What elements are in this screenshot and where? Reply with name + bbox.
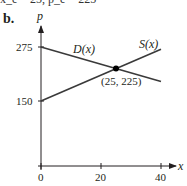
supply-label: S(x) [139, 37, 158, 51]
y-tick-label-275: 275 [16, 41, 33, 53]
x-axis-label: x [177, 159, 184, 173]
supply-demand-chart: p x 275 150 0 20 40 D(x) S(x) (25, 225) [0, 0, 187, 186]
y-tick-label-150: 150 [16, 95, 33, 107]
equilibrium-point [113, 66, 119, 72]
equilibrium-label: (25, 225) [101, 75, 142, 88]
x-tick-label-40: 40 [155, 171, 167, 183]
y-axis-label: p [36, 9, 43, 23]
x-tick-label-20: 20 [95, 171, 107, 183]
x-tick-label-0: 0 [38, 171, 44, 183]
demand-label: D(x) [72, 42, 95, 56]
